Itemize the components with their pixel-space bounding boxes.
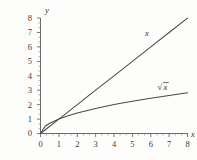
x-tick-label: 7	[167, 139, 171, 149]
x-axis-major-ticks	[41, 134, 188, 138]
y-axis-tick-labels: 0 1 2 3 4 5 6 7 8	[28, 13, 33, 138]
plot-canvas: 0 1 2 3 4 5 6 7 8 0 1 2 3 4 5 6 7 8 y x …	[0, 0, 197, 160]
series-label-sqrt-x: √ x	[158, 82, 169, 92]
x-tick-label: 2	[75, 139, 79, 149]
x-axis-label: x	[190, 129, 195, 139]
x-tick-label: 3	[93, 139, 97, 149]
y-tick-label: 1	[28, 114, 32, 124]
y-axis-major-ticks	[37, 18, 41, 133]
x-tick-label: 0	[38, 139, 42, 149]
x-tick-label: 6	[149, 139, 153, 149]
y-tick-label: 6	[28, 42, 32, 52]
y-axis-label: y	[44, 5, 49, 15]
series-label-x: x	[144, 28, 149, 38]
series-curve-sqrt-x	[41, 93, 188, 134]
x-tick-label: 5	[130, 139, 134, 149]
y-tick-label: 2	[28, 100, 32, 110]
y-tick-label: 4	[28, 71, 33, 81]
y-tick-label: 3	[28, 85, 32, 95]
chart-figure: 0 1 2 3 4 5 6 7 8 0 1 2 3 4 5 6 7 8 y x …	[0, 0, 197, 160]
radicand: x	[162, 82, 167, 92]
x-tick-label: 1	[57, 139, 61, 149]
x-axis-tick-labels: 0 1 2 3 4 5 6 7 8	[38, 139, 189, 149]
y-tick-label: 7	[28, 27, 32, 37]
y-tick-label: 5	[28, 56, 32, 66]
series-line-x	[41, 18, 188, 133]
y-tick-label: 0	[28, 128, 32, 138]
y-tick-label: 8	[28, 13, 32, 23]
x-tick-label: 4	[112, 139, 117, 149]
radical-sign: √	[158, 82, 163, 92]
x-tick-label: 8	[185, 139, 189, 149]
